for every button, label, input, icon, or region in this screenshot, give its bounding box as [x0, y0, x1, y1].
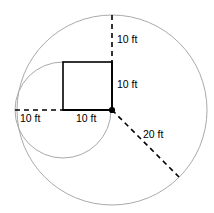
square-shape — [63, 62, 112, 110]
label-right-segment: 10 ft — [117, 79, 137, 90]
label-radius-segment: 20 ft — [143, 129, 163, 140]
radius-dashed-dimension-line — [112, 110, 179, 177]
geometry-canvas — [0, 0, 214, 213]
label-top-segment: 10 ft — [117, 34, 137, 45]
vertex-dot — [109, 107, 115, 113]
label-bottom-segment: 10 ft — [76, 113, 96, 124]
geometry-figure: 10 ft 10 ft 10 ft 10 ft 20 ft — [0, 0, 214, 213]
label-left-segment: 10 ft — [20, 113, 40, 124]
